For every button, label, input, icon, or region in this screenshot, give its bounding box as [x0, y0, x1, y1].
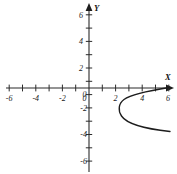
- x-tick-label: -4: [32, 94, 39, 103]
- coordinate-plane-figure: -6 -4 -2 0 2 4 6 6 4 2 0 -2 -4 -6 Y X: [0, 0, 177, 174]
- y-tick-label: 2: [79, 64, 83, 73]
- y-axis-label: Y: [94, 3, 100, 13]
- y-tick-label: -2: [80, 104, 87, 113]
- y-tick-label: -6: [80, 157, 87, 166]
- x-tick-label: 6: [166, 94, 170, 103]
- x-tick-label: 2: [114, 94, 118, 103]
- x-tick-label: 4: [140, 94, 144, 103]
- x-axis-tick-labels: -6 -4 -2 0 2 4 6: [6, 94, 170, 103]
- x-axis-label: X: [164, 72, 171, 82]
- parabola-curve: [119, 88, 170, 132]
- y-tick-label: -4: [80, 130, 87, 139]
- x-tick-label: -2: [59, 94, 66, 103]
- y-tick-label: 4: [79, 37, 83, 46]
- x-tick-label: -6: [6, 94, 13, 103]
- y-tick-label: 0: [83, 90, 87, 99]
- y-tick-label: 6: [79, 11, 83, 20]
- y-axis-arrow-icon: [86, 3, 93, 11]
- graph-screenshot: -6 -4 -2 0 2 4 6 6 4 2 0 -2 -4 -6 Y X: [0, 0, 177, 174]
